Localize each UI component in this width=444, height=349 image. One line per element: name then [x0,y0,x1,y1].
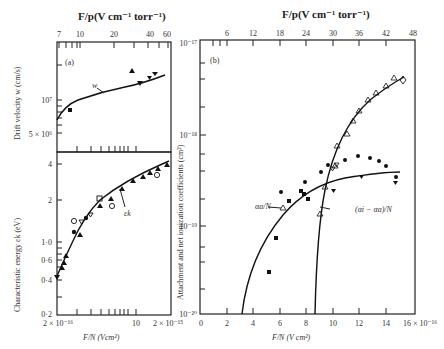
svg-text:10⁻¹⁸: 10⁻¹⁸ [180,131,198,140]
svg-text:14: 14 [382,319,390,328]
svg-text:8: 8 [304,319,308,328]
drift-velocity-curve [57,75,165,120]
svg-text:36: 36 [355,29,363,38]
right-data-points [267,75,406,274]
svg-text:30: 30 [329,29,337,38]
net-ionization-curve [315,77,404,314]
right-top-axis-title: F/p(V cm⁻¹ torr⁻¹) [282,8,370,21]
panel-b-label: (b) [210,56,220,65]
right-x-axis-label: F/N (V cm²) [271,333,311,342]
alpha-a-curve [242,172,400,314]
figure: F/p(V cm⁻¹ torr⁻¹) 7 10 20 40 60 [0,0,444,349]
svg-text:12: 12 [249,29,257,38]
left-top-tick-10: 10 [76,30,84,39]
right-top-ticks [213,40,386,46]
svg-text:16 × 10⁻¹⁶: 16 × 10⁻¹⁶ [403,319,437,328]
drift-plot-frame [57,42,171,152]
svg-text:18: 18 [276,29,284,38]
svg-text:0·2: 0·2 [41,310,52,319]
svg-text:24: 24 [302,29,310,38]
svg-text:6: 6 [225,29,229,38]
left-top-tick-7: 7 [57,30,61,39]
svg-text:2: 2 [48,196,52,205]
alpha-a-label: αa/N [255,202,271,211]
svg-text:2: 2 [225,319,229,328]
svg-text:0: 0 [199,319,203,328]
net-label: (αi − αa)/N [355,205,393,214]
svg-text:10: 10 [132,319,140,328]
left-x-axis-label: F/N (Vcm²) [82,333,120,342]
attachment-plot-frame [200,40,415,314]
svg-text:2 × 10⁻¹⁶: 2 × 10⁻¹⁶ [43,319,73,328]
svg-text:10: 10 [329,319,337,328]
svg-text:0·6: 0·6 [41,256,52,265]
energy-data-points [54,162,170,280]
left-top-axis-title: F/p(V cm⁻¹ torr⁻¹) [78,10,166,23]
right-y-axis-label: Attachment and net ionization coefficien… [176,144,185,300]
w-label: w [92,81,98,90]
svg-text:4: 4 [251,319,255,328]
svg-text:10⁻²⁰: 10⁻²⁰ [179,310,197,319]
drift-y-axis-label: Drift velocity w (cm/s) [13,66,22,140]
energy-y-tick-labels: 4 2 1·0 0·6 0·4 0·2 [41,160,52,319]
left-top-tick-60: 60 [163,30,171,39]
drift-bottom-ticks [77,146,136,152]
right-x-tick-labels: 0 2 4 6 8 10 12 14 16 × 10⁻¹⁶ [199,319,437,328]
drift-y-tick-5e6: 5 × 10⁶ [29,130,53,139]
panel-a-label: (a) [65,58,74,67]
ek-label: εk [124,209,131,218]
svg-text:10⁻¹⁷: 10⁻¹⁷ [180,39,198,48]
left-top-tick-labels: 7 10 20 40 60 [57,30,171,39]
svg-text:42: 42 [382,29,390,38]
energy-x-ticks [77,309,136,315]
left-top-ticks [59,42,168,48]
energy-y-axis-label: Characteristic energy εk (eV) [13,218,22,312]
drift-y-tick-10-7: 10⁷ [41,96,52,105]
right-top-tick-labels: 6 12 18 24 30 36 42 48 [225,29,417,38]
left-top-tick-40: 40 [146,30,154,39]
right-y-ticks [200,63,206,289]
energy-x-tick-labels: 2 × 10⁻¹⁶ 10 2 × 10⁻¹⁵ [43,319,183,328]
svg-text:6: 6 [278,319,282,328]
ek-pointer [120,189,125,207]
svg-text:12: 12 [355,319,363,328]
svg-text:0·4: 0·4 [41,276,52,285]
svg-text:2 × 10⁻¹⁵: 2 × 10⁻¹⁵ [153,319,183,328]
left-top-tick-20: 20 [110,30,118,39]
svg-text:4: 4 [48,160,52,169]
svg-text:1·0: 1·0 [41,238,52,247]
drift-y-ticks [57,65,62,133]
svg-text:48: 48 [409,29,417,38]
right-x-ticks [227,308,386,314]
